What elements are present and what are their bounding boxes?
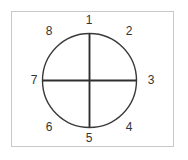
position-label-6: 6 — [42, 121, 56, 135]
position-label-8: 8 — [42, 25, 56, 39]
position-label-7: 7 — [27, 74, 41, 88]
position-label-2: 2 — [122, 25, 136, 39]
diagram-root: 1 2 3 4 5 6 7 8 — [0, 0, 188, 160]
position-label-3: 3 — [144, 74, 158, 88]
position-label-1: 1 — [82, 14, 96, 28]
position-label-5: 5 — [82, 132, 96, 146]
position-label-4: 4 — [122, 121, 136, 135]
